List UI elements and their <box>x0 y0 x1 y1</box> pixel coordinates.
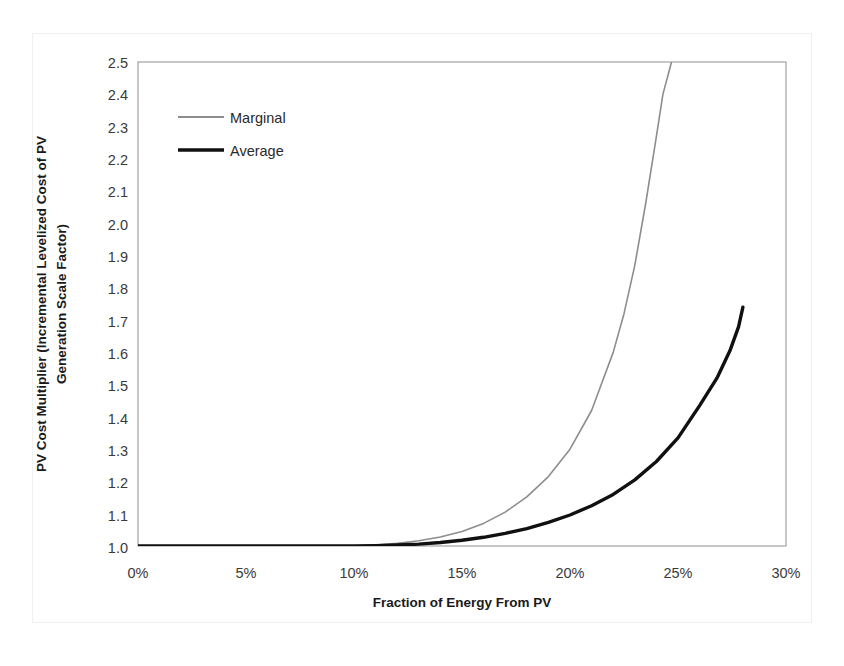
y-tick-label: 1.9 <box>108 249 128 265</box>
y-axis-title: PV Cost Multiplier (Incremental Levelize… <box>34 136 69 472</box>
y-tick-label: 2.3 <box>108 120 128 136</box>
x-tick-label: 0% <box>128 565 149 581</box>
y-tick-label: 1.4 <box>108 411 128 427</box>
series-line-marginal <box>138 62 672 546</box>
y-tick-label: 1.8 <box>108 281 128 297</box>
y-tick-label: 2.2 <box>108 152 128 168</box>
x-tick-label: 10% <box>339 565 368 581</box>
x-tick-label: 15% <box>447 565 476 581</box>
y-axis-title-line1: PV Cost Multiplier (Incremental Levelize… <box>34 136 49 472</box>
y-tick-label: 2.5 <box>108 55 128 71</box>
y-tick-label: 2.0 <box>108 217 128 233</box>
y-tick-label: 1.3 <box>108 443 128 459</box>
y-tick-label: 1.7 <box>108 314 128 330</box>
series-group <box>138 62 743 546</box>
y-axis-tick-labels: 2.5 2.4 2.3 2.2 2.1 2.0 1.9 1.8 1.7 1.6 … <box>108 55 128 556</box>
y-tick-label: 1.0 <box>108 540 128 556</box>
y-tick-label: 1.1 <box>108 508 128 524</box>
y-tick-label: 2.1 <box>108 184 128 200</box>
x-tick-label: 20% <box>555 565 584 581</box>
x-tick-label: 25% <box>663 565 692 581</box>
y-axis-title-line2: Generation Scale Factor) <box>54 224 69 384</box>
plot-area-frame <box>138 62 786 546</box>
series-line-average <box>138 307 743 546</box>
x-axis-tick-labels: 0% 5% 10% 15% 20% 25% 30% <box>128 565 801 581</box>
legend-label-average: Average <box>230 143 284 159</box>
pv-cost-multiplier-line-chart: 2.5 2.4 2.3 2.2 2.1 2.0 1.9 1.8 1.7 1.6 … <box>0 0 844 666</box>
x-tick-label: 30% <box>771 565 800 581</box>
legend-label-marginal: Marginal <box>230 110 286 126</box>
x-axis-title: Fraction of Energy From PV <box>373 595 552 610</box>
x-tick-label: 5% <box>236 565 257 581</box>
y-tick-label: 1.5 <box>108 378 128 394</box>
chart-figure: 2.5 2.4 2.3 2.2 2.1 2.0 1.9 1.8 1.7 1.6 … <box>0 0 844 666</box>
y-tick-label: 1.2 <box>108 475 128 491</box>
y-tick-label: 1.6 <box>108 346 128 362</box>
y-tick-label: 2.4 <box>108 87 128 103</box>
chart-legend: Marginal Average <box>178 110 286 159</box>
